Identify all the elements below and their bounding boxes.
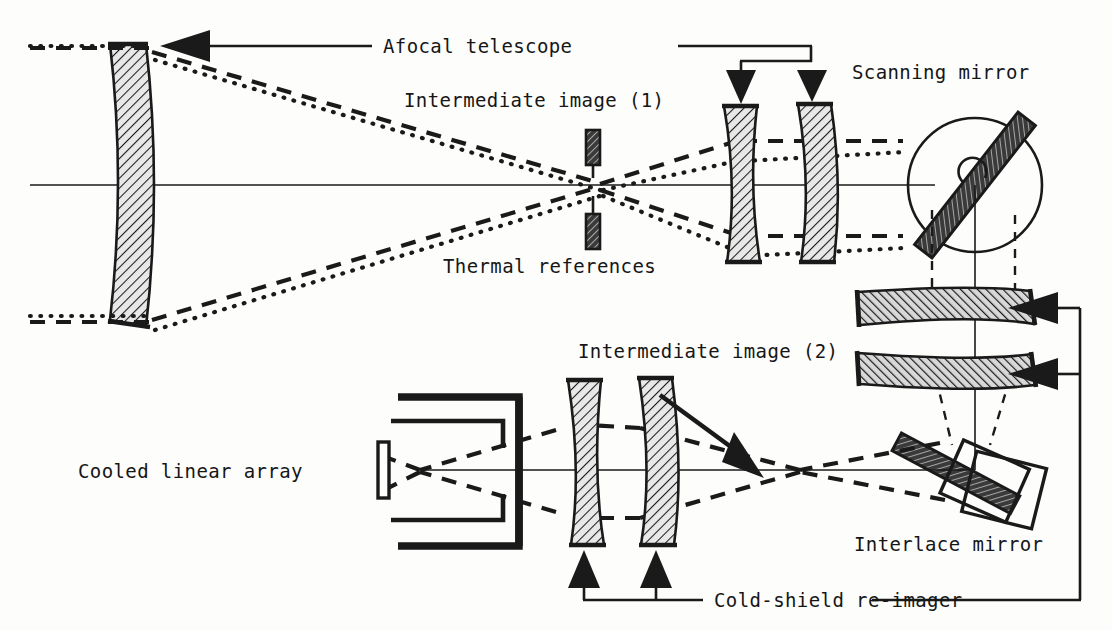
label-scanning-mirror: Scanning mirror [852,61,1030,83]
interlace-mirror [892,433,1046,529]
cold-shield-lens-1 [568,380,604,545]
int2-arrow-icon [722,432,764,478]
relay-lens-upper [858,288,1034,325]
label-cold-shield-reimager: Cold-shield re-imager [714,589,963,611]
afocal-arrow-lens1-icon [726,70,756,104]
label-afocal-telescope: Afocal telescope [383,35,572,57]
detector-array [378,442,389,498]
label-thermal-references: Thermal references [443,255,656,277]
ray-dotted-lower-diverge [603,196,744,254]
telescope-eyepiece-lens-2 [798,104,838,262]
ray-lower-to-detector-upper [420,430,556,470]
ray-lower-to-detector-lower [420,472,556,512]
label-cooled-linear-array: Cooled linear array [78,460,303,482]
optical-system-diagram: Afocal telescope Intermediate image (1) … [0,0,1112,630]
coldshield-arrow-lens2-icon [640,550,672,588]
afocal-arrow-lens2-icon [797,70,827,102]
ray-dashed-lower-converge [152,188,596,320]
label-intermediate-image-1: Intermediate image (1) [404,89,664,111]
afocal-arrow-left-icon [160,30,210,62]
thermal-reference-bar-upper [586,130,600,165]
ray-dashed-upper-diverge [600,140,740,184]
thermal-reference-bar-lower [586,214,600,249]
optical-diagram-page: Afocal telescope Intermediate image (1) … [0,0,1112,630]
relay-lens-lower [858,353,1035,389]
ray-dashed-upper-converge [152,52,596,182]
telescope-eyepiece-lens-1 [724,106,760,262]
coldshield-arrow-lens1-icon [568,550,600,588]
dewar-cold-shield [391,397,519,546]
ray-dashed-lower-diverge [600,190,740,236]
label-intermediate-image-2: Intermediate image (2) [578,340,838,362]
ray-dotted-upper-converge [155,60,600,190]
ray-lower-from-interlace-lower [800,472,945,500]
label-interlace-mirror: Interlace mirror [854,533,1043,555]
